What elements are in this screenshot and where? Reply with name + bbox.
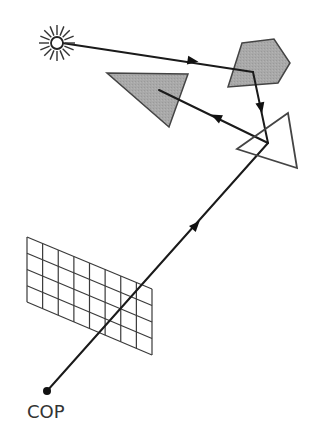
sun-ray bbox=[40, 46, 49, 50]
pentagon-object bbox=[228, 39, 290, 87]
sun-ray bbox=[60, 26, 64, 35]
sun-ray bbox=[63, 49, 70, 56]
sun-ray bbox=[64, 36, 73, 40]
sun-core bbox=[51, 37, 63, 49]
sun-ray bbox=[50, 26, 54, 35]
cop-label: COP bbox=[27, 401, 65, 422]
ray-light-to-pentagon bbox=[62, 43, 253, 72]
sun-ray bbox=[44, 30, 51, 37]
sun-ray bbox=[40, 36, 49, 40]
ray-tracing-diagram: COP bbox=[0, 0, 322, 436]
sun-ray bbox=[64, 46, 73, 50]
image-plane-grid bbox=[27, 237, 152, 355]
ray-cop-to-triangle bbox=[47, 143, 268, 391]
sun-ray bbox=[60, 50, 64, 59]
sun-ray bbox=[50, 50, 54, 59]
arrowhead-icon bbox=[255, 102, 264, 114]
sun-ray bbox=[63, 30, 70, 37]
shaded-triangle-object bbox=[107, 73, 188, 127]
sun-ray bbox=[44, 49, 51, 56]
cop-point bbox=[43, 387, 51, 395]
sun-icon bbox=[39, 25, 75, 61]
arrowhead-icon bbox=[211, 115, 223, 124]
